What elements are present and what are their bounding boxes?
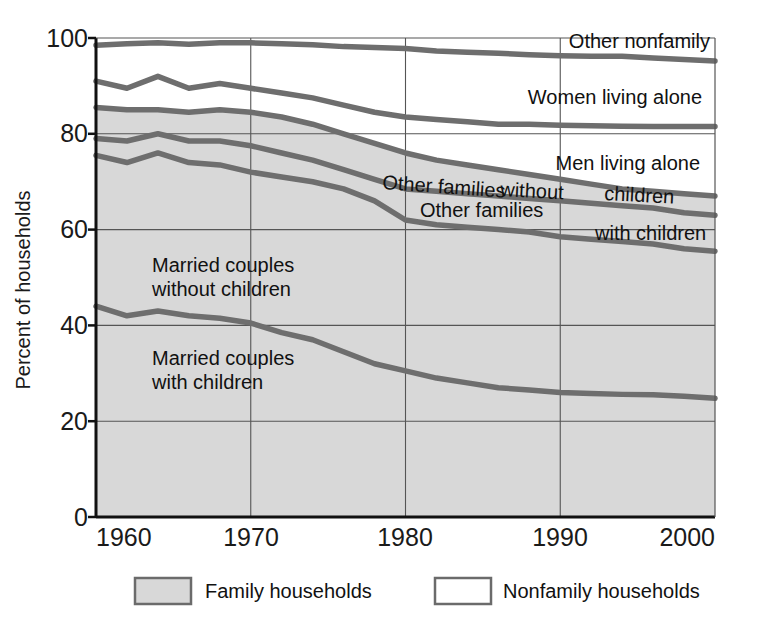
y-axis-title: Percent of households <box>12 190 34 389</box>
legend-swatch-nonfamily <box>435 578 491 604</box>
x-tick-label-1970: 1970 <box>223 523 279 551</box>
band-label-married-with-line1: Married couples <box>152 347 294 369</box>
x-tick-label-1980: 1980 <box>377 523 433 551</box>
household-composition-area-chart: 100 80 60 40 20 0 1960 1970 1980 1990 20… <box>0 0 767 633</box>
legend: Family households Nonfamily households <box>135 578 700 604</box>
y-tick-label-60: 60 <box>60 215 88 243</box>
legend-label-nonfamily: Nonfamily households <box>503 580 700 602</box>
x-tick-label-1990: 1990 <box>532 523 588 551</box>
band-label-married-without-line2: without children <box>151 278 291 300</box>
band-label-men-living-alone: Men living alone <box>555 152 700 174</box>
y-tick-label-40: 40 <box>60 311 88 339</box>
band-label-other-nonfamily: Other nonfamily <box>569 30 710 52</box>
x-tick-label-2000: 2000 <box>659 523 715 551</box>
band-label-other-families-with-1: Other families <box>420 199 543 221</box>
band-label-women-living-alone: Women living alone <box>528 86 702 108</box>
chart-figure: 100 80 60 40 20 0 1960 1970 1980 1990 20… <box>0 0 767 633</box>
y-tick-label-20: 20 <box>60 407 88 435</box>
band-label-married-without-line1: Married couples <box>152 254 294 276</box>
x-tick-label-1960: 1960 <box>96 523 152 551</box>
y-tick-label-0: 0 <box>74 503 88 531</box>
band-label-other-families-with-2: with children <box>594 222 706 244</box>
y-tick-label-100: 100 <box>46 24 88 52</box>
legend-label-family: Family households <box>205 580 372 602</box>
y-tick-label-80: 80 <box>60 119 88 147</box>
band-label-married-with-line2: with children <box>151 371 263 393</box>
legend-swatch-family <box>135 578 191 604</box>
band-label-other-families-without-3: children <box>604 182 675 208</box>
